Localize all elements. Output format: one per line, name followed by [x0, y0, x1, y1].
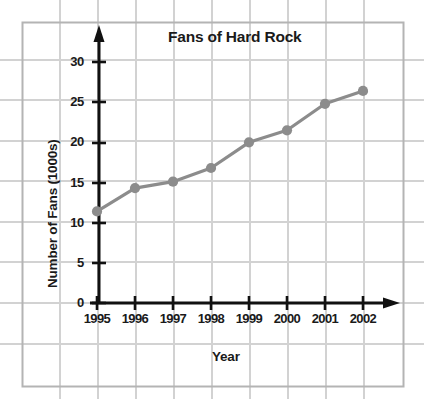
- data-point-marker: [244, 137, 254, 147]
- data-point-marker: [92, 206, 102, 216]
- x-tick-label: 2000: [268, 311, 306, 326]
- x-tick-label: 1998: [192, 311, 230, 326]
- x-tick-label: 1999: [230, 311, 268, 326]
- y-tick-label: 30: [58, 54, 84, 69]
- data-point-marker: [206, 163, 216, 173]
- y-tick-label: 5: [58, 255, 84, 270]
- y-tick-label: 20: [58, 134, 84, 149]
- y-tick-label: 15: [58, 175, 84, 190]
- data-point-marker: [168, 177, 178, 187]
- data-point-marker: [282, 125, 292, 135]
- x-tick-label: 2001: [306, 311, 344, 326]
- x-tick-label: 1996: [116, 311, 154, 326]
- x-tick-label: 2002: [344, 311, 382, 326]
- data-point-markers: [92, 86, 368, 217]
- x-tick-label: 1997: [154, 311, 192, 326]
- y-tick-label: 10: [58, 215, 84, 230]
- x-axis-arrowhead: [383, 298, 400, 309]
- chart-figure: Fans of Hard Rock Number of Fans (1000s)…: [0, 0, 424, 399]
- data-point-marker: [358, 86, 368, 96]
- data-point-marker: [130, 183, 140, 193]
- data-series-line: [97, 91, 363, 211]
- x-tick-label: 1995: [78, 311, 116, 326]
- data-point-marker: [320, 99, 330, 109]
- x-axis-title: Year: [212, 349, 240, 364]
- y-axis-arrowhead: [94, 25, 105, 42]
- y-tick-label: 0: [58, 295, 84, 310]
- chart-title: Fans of Hard Rock: [168, 28, 302, 46]
- y-tick-label: 25: [58, 94, 84, 109]
